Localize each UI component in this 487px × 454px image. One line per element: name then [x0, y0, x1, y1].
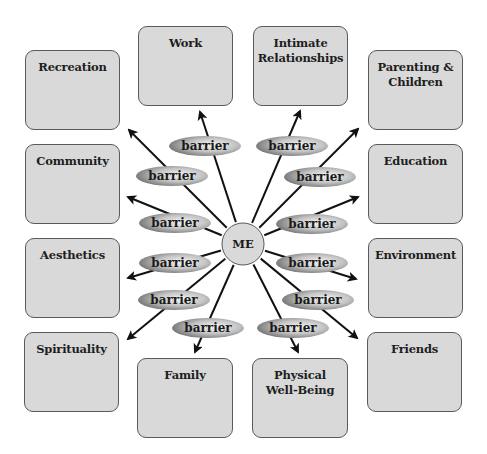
arrow-to-intimate-relationships	[252, 111, 300, 223]
barrier-recreation: barrier	[136, 166, 208, 186]
domain-label: Intimate Relationships	[254, 36, 347, 66]
domain-label: Friends	[368, 342, 461, 357]
barrier-friends: barrier	[282, 290, 354, 310]
barrier-family: barrier	[172, 318, 244, 338]
barrier-community: barrier	[139, 213, 211, 233]
barrier-label: barrier	[296, 170, 344, 184]
barrier-education: barrier	[276, 214, 348, 234]
domain-box-parenting-children: Parenting & Children	[368, 50, 463, 130]
barrier-label: barrier	[184, 321, 232, 335]
arrow-to-physical-well-being	[253, 264, 298, 352]
domain-box-intimate-relationships: Intimate Relationships	[253, 26, 348, 106]
domain-box-community: Community	[25, 144, 120, 224]
barrier-label: barrier	[288, 256, 336, 270]
domain-box-spirituality: Spirituality	[24, 332, 119, 412]
barrier-label: barrier	[181, 139, 229, 153]
life-domains-barrier-diagram: barrierbarrierbarrierbarrierbarrierbarri…	[0, 0, 487, 454]
domain-label: Community	[26, 154, 119, 169]
me-label: ME	[232, 237, 254, 251]
domain-label: Education	[369, 154, 462, 169]
domain-label: Aesthetics	[26, 248, 119, 263]
domain-label: Family	[138, 368, 232, 383]
barrier-intimate-relationships: barrier	[256, 136, 328, 156]
domain-box-work: Work	[138, 26, 233, 106]
domain-label: Physical Well-Being	[253, 368, 347, 398]
barrier-physical-well-being: barrier	[257, 318, 329, 338]
barrier-label: barrier	[150, 293, 198, 307]
barrier-parenting-children: barrier	[284, 167, 356, 187]
domain-box-education: Education	[368, 144, 463, 224]
domain-label: Parenting & Children	[369, 60, 462, 90]
barrier-aesthetics: barrier	[139, 253, 211, 273]
domain-label: Spirituality	[25, 342, 118, 357]
barrier-label: barrier	[268, 139, 316, 153]
domain-box-recreation: Recreation	[25, 50, 120, 130]
barrier-environment: barrier	[276, 253, 348, 273]
barrier-label: barrier	[294, 293, 342, 307]
barrier-label: barrier	[269, 321, 317, 335]
me-node: ME	[222, 223, 264, 265]
domain-label: Recreation	[26, 60, 119, 75]
barrier-spirituality: barrier	[138, 290, 210, 310]
domain-box-environment: Environment	[368, 238, 463, 318]
barrier-work: barrier	[169, 136, 241, 156]
barrier-label: barrier	[151, 216, 199, 230]
domain-box-physical-well-being: Physical Well-Being	[252, 358, 348, 438]
barrier-label: barrier	[151, 256, 199, 270]
domain-box-friends: Friends	[367, 332, 462, 412]
domain-label: Work	[139, 36, 232, 51]
barrier-label: barrier	[148, 169, 196, 183]
domain-box-family: Family	[137, 358, 233, 438]
barrier-label: barrier	[288, 217, 336, 231]
domain-label: Environment	[369, 248, 462, 263]
domain-box-aesthetics: Aesthetics	[25, 238, 120, 318]
